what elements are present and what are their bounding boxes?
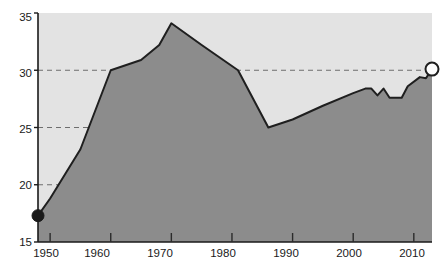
x-tick-label-1980: 1980 bbox=[210, 247, 236, 259]
chart-container: 35 30 25 20 15 1950 1960 1970 1980 1990 … bbox=[0, 0, 447, 273]
y-tick-label-35: 35 bbox=[19, 11, 32, 23]
x-tick-label-2000: 2000 bbox=[336, 247, 362, 259]
x-tick-label-1990: 1990 bbox=[273, 247, 299, 259]
y-tick-label-25: 25 bbox=[19, 123, 32, 135]
y-tick-label-15: 15 bbox=[19, 236, 32, 248]
area-chart: 35 30 25 20 15 1950 1960 1970 1980 1990 … bbox=[0, 0, 447, 273]
x-tick-label-1960: 1960 bbox=[84, 247, 110, 259]
x-tick-label-1970: 1970 bbox=[147, 247, 173, 259]
x-tick-label-1950: 1950 bbox=[33, 247, 59, 259]
start-marker-icon bbox=[32, 210, 44, 222]
y-tick-label-30: 30 bbox=[19, 67, 32, 79]
y-tick-label-20: 20 bbox=[19, 179, 32, 191]
end-marker-icon bbox=[426, 63, 439, 76]
x-tick-label-2010: 2010 bbox=[399, 247, 425, 259]
